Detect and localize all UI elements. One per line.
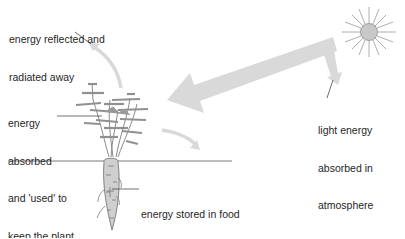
sun-icon [342, 7, 396, 57]
carrot-root [97, 158, 121, 230]
plant-heat-arrow [162, 130, 200, 150]
incoming-light-arrow [167, 37, 337, 113]
plant-label-line-2: absorbed [8, 155, 74, 168]
reflected-label-line-1: energy reflected and [9, 33, 105, 46]
plant-label-line-3: and 'used' to [8, 192, 74, 205]
plant-label-line-4: keep the plant [8, 230, 74, 239]
atmosphere-label-line-1: light energy [318, 124, 373, 137]
plant-absorbed-label: energy absorbed and 'used' to keep the p… [8, 92, 74, 238]
atmosphere-absorbed-label: light energy absorbed in atmosphere [318, 99, 373, 224]
stored-label-line-1: energy stored in food [141, 208, 240, 221]
atmosphere-absorption-arrow [322, 45, 342, 85]
reflected-energy-label: energy reflected and radiated away [9, 8, 105, 96]
atmosphere-leader-line [327, 80, 333, 98]
plant-label-line-1: energy [8, 117, 74, 130]
stored-energy-label: energy stored in food (only this energy … [141, 183, 240, 238]
atmosphere-label-line-3: atmosphere [318, 199, 373, 212]
reflected-label-line-2: radiated away [9, 71, 105, 84]
atmosphere-label-line-2: absorbed in [318, 162, 373, 175]
